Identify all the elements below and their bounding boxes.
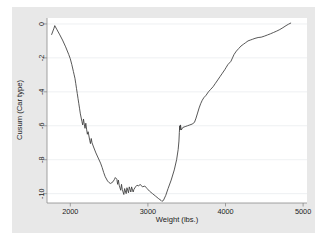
y-tick-label: -10 [37, 188, 46, 199]
plot-area [47, 18, 307, 203]
x-tick-label: 5000 [295, 207, 311, 216]
cusum-chart: 0-2-4-6-8-10 2000300040005000 Weight (lb… [0, 0, 327, 248]
x-tick-label: 3000 [140, 207, 156, 216]
y-tick-label: -2 [37, 55, 46, 62]
y-tick-label: 0 [37, 22, 46, 26]
x-axis-label: Weight (lbs.) [156, 215, 199, 224]
y-tick-label: -8 [37, 156, 46, 163]
y-tick-label: -4 [37, 89, 46, 96]
y-axis-ticks: 0-2-4-6-8-10 [37, 22, 47, 199]
x-tick-label: 4000 [217, 207, 233, 216]
y-axis-label: Cusum (Car type) [15, 80, 24, 140]
x-tick-label: 2000 [62, 207, 78, 216]
y-tick-label: -6 [37, 123, 46, 130]
